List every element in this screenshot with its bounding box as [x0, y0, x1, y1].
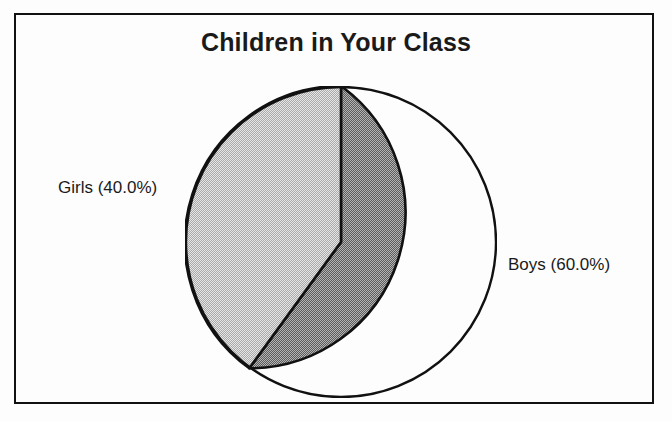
pie-label-boys: Boys (60.0%) [508, 255, 610, 275]
pie-chart-figure: Children in Your Class Gir [0, 0, 672, 421]
pie-label-girls: Girls (40.0%) [58, 178, 157, 198]
pie-svg [185, 86, 497, 398]
pie-chart [185, 86, 497, 398]
chart-title: Children in Your Class [0, 28, 672, 57]
